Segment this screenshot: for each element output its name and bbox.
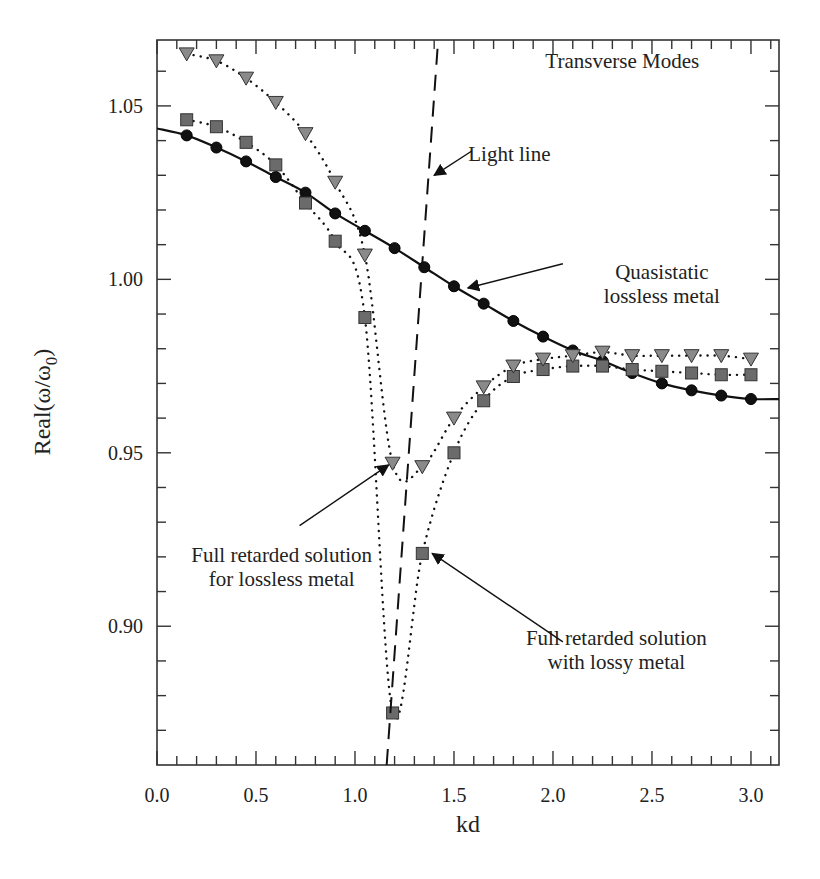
circle-marker — [389, 243, 400, 254]
x-tick-label: 2.5 — [639, 784, 664, 806]
annotation-lightline-arrow — [434, 151, 472, 175]
circle-marker — [745, 394, 756, 405]
x-axis-title: kd — [456, 811, 480, 837]
y-tick-label: 1.05 — [108, 95, 143, 117]
y-tick-label: 0.95 — [108, 442, 143, 464]
square-marker — [270, 159, 282, 171]
triangle-marker — [446, 412, 461, 425]
y-tick-label: 0.90 — [108, 615, 143, 637]
dispersion-chart: 0.00.51.01.52.02.53.00.900.951.001.05 Tr… — [0, 0, 820, 879]
triangle-marker — [357, 249, 372, 262]
triangle-marker — [209, 55, 224, 68]
y-axis-title: Real(ω/ω0) — [29, 349, 61, 456]
annotation-lossy-text: with lossy metal — [547, 650, 685, 674]
square-marker — [329, 235, 341, 247]
circle-marker — [211, 142, 222, 153]
annotation-lossless-arrow — [300, 465, 389, 526]
annotation-transverse-text: Transverse Modes — [545, 49, 699, 73]
annotation-quasistatic-arrow — [468, 264, 563, 288]
circle-marker — [330, 208, 341, 219]
x-tick-label: 1.5 — [441, 784, 466, 806]
circle-marker — [538, 331, 549, 342]
y-axis-title-close: ) — [29, 349, 55, 357]
circle-marker — [656, 378, 667, 389]
y-axis-title-sub: 0 — [42, 357, 61, 366]
svg-text:Real(ω/ω0): Real(ω/ω0) — [29, 349, 61, 456]
square-marker — [387, 707, 399, 719]
circle-marker — [478, 298, 489, 309]
square-marker — [240, 136, 252, 148]
circle-marker — [270, 172, 281, 183]
square-marker — [416, 547, 428, 559]
annotation-lossless-text: for lossless metal — [209, 567, 355, 591]
square-marker — [745, 369, 757, 381]
square-marker — [448, 447, 460, 459]
square-marker — [478, 395, 490, 407]
x-tick-label: 0.0 — [145, 784, 170, 806]
x-tick-label: 3.0 — [738, 784, 763, 806]
annotations: Transverse ModesLight lineQuasistaticlos… — [191, 49, 720, 675]
square-marker — [715, 369, 727, 381]
x-tick-label: 0.5 — [243, 784, 268, 806]
annotation-quasistatic-text: lossless metal — [604, 284, 720, 308]
light-line-line — [387, 40, 438, 765]
circle-marker — [716, 390, 727, 401]
square-marker — [686, 367, 698, 379]
triangle-marker — [328, 176, 343, 189]
y-tick-label: 1.00 — [108, 268, 143, 290]
circle-marker — [419, 262, 430, 273]
annotation-quasistatic-text: Quasistatic — [615, 260, 708, 284]
annotation-lossless-text: Full retarded solution — [191, 543, 372, 567]
circle-marker — [241, 156, 252, 167]
circle-marker — [508, 315, 519, 326]
square-marker — [656, 365, 668, 377]
triangle-marker — [298, 128, 313, 141]
triangle-marker — [385, 457, 400, 470]
triangle-marker — [654, 350, 669, 363]
triangle-marker — [476, 381, 491, 394]
circle-marker — [448, 281, 459, 292]
x-tick-label: 2.0 — [540, 784, 565, 806]
triangle-marker — [714, 350, 729, 363]
x-tick-label: 1.0 — [342, 784, 367, 806]
triangle-marker — [179, 48, 194, 61]
triangle-marker — [268, 96, 283, 109]
circle-marker — [686, 385, 697, 396]
square-marker — [299, 197, 311, 209]
square-marker — [210, 121, 222, 133]
axes: 0.00.51.01.52.02.53.00.900.951.001.05 — [108, 40, 779, 806]
triangle-marker — [743, 353, 758, 366]
square-marker — [359, 312, 371, 324]
square-marker — [181, 114, 193, 126]
y-axis-title-main: Real(ω/ω — [29, 365, 55, 455]
square-marker — [596, 360, 608, 372]
annotation-lossy-arrow — [432, 553, 563, 641]
annotation-lossy-text: Full retarded solution — [526, 626, 707, 650]
circle-marker — [181, 130, 192, 141]
square-marker — [626, 364, 638, 376]
triangle-marker — [239, 72, 254, 85]
annotation-lightline-text: Light line — [468, 142, 550, 166]
